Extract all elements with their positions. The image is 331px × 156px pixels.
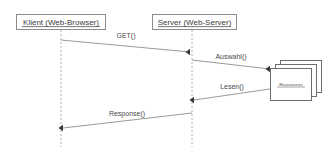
- message-response-label: Response(): [109, 110, 145, 118]
- message-response[interactable]: Response(): [59, 110, 193, 131]
- message-auswahl-label: Auswahl(): [215, 53, 246, 61]
- ressourcen-label: Ressourcen: [279, 82, 303, 87]
- sequence-diagram-canvas: Klient (Web-Browser) Server (Web-Server)…: [0, 0, 331, 156]
- message-lesen-label: Lesen(): [220, 83, 244, 91]
- message-auswahl-arrowhead: [266, 66, 271, 72]
- object-node-ressourcen[interactable]: Ressourcen: [271, 61, 322, 101]
- message-get[interactable]: GET(): [61, 32, 190, 55]
- participant-client[interactable]: Klient (Web-Browser): [17, 15, 106, 30]
- participant-server[interactable]: Server (Web-Server): [153, 15, 237, 30]
- participant-server-label: Server (Web-Server): [158, 18, 232, 27]
- message-lesen-line: [194, 89, 270, 100]
- diagram-svg: Klient (Web-Browser) Server (Web-Server)…: [0, 0, 331, 156]
- message-lesen[interactable]: Lesen(): [190, 83, 271, 103]
- participant-client-label: Klient (Web-Browser): [23, 18, 99, 27]
- message-get-arrowhead: [186, 49, 191, 55]
- message-get-label: GET(): [116, 32, 135, 40]
- message-auswahl[interactable]: Auswahl(): [192, 53, 270, 72]
- message-get-line: [61, 40, 190, 52]
- message-auswahl-line: [192, 60, 270, 69]
